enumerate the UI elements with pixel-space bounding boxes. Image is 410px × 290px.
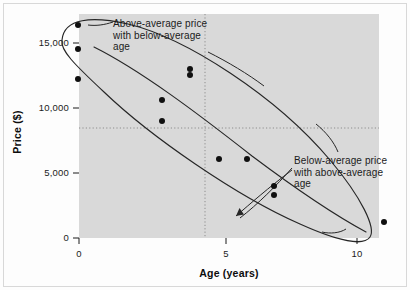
x-tick-label-0: 0 xyxy=(64,248,94,259)
x-tick-label-5: 5 xyxy=(211,248,241,259)
annotation-above-average: Above-average price with below-average a… xyxy=(113,18,218,53)
data-point xyxy=(75,22,81,28)
data-point xyxy=(271,183,277,189)
data-point xyxy=(381,219,387,225)
data-point xyxy=(159,118,165,124)
scatter-plot-figure: 15,000 10,000 5,000 0 0 5 10 Price ($) A… xyxy=(0,0,410,290)
data-point xyxy=(244,156,250,162)
annotation-arrow-below xyxy=(236,208,244,216)
data-point xyxy=(159,97,165,103)
y-tick-label-5000: 5,000 xyxy=(13,167,69,178)
annotation-arrow-down xyxy=(322,229,346,233)
x-tick-label-10: 10 xyxy=(342,248,372,259)
y-tick-label-0: 0 xyxy=(13,232,69,243)
trend-line xyxy=(94,47,366,232)
annotation-below-average: Below-average price with above-average a… xyxy=(294,155,394,190)
data-point xyxy=(75,46,81,52)
annotation-leader-above-2 xyxy=(208,52,264,86)
enclosing-ellipse xyxy=(62,20,372,242)
y-tick-label-15000: 15,000 xyxy=(13,37,69,48)
data-point xyxy=(187,72,193,78)
data-point xyxy=(271,192,277,198)
annotation-leader-above xyxy=(88,22,113,25)
y-axis-title: Price ($) xyxy=(11,97,23,167)
data-point xyxy=(75,76,81,82)
x-axis-title: Age (years) xyxy=(79,267,379,279)
data-point xyxy=(187,66,193,72)
data-point xyxy=(216,156,222,162)
